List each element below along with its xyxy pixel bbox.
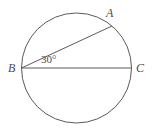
angle-measure-label: 30° [41, 54, 56, 65]
point-label-a: A [106, 7, 113, 19]
point-label-b: B [8, 62, 15, 74]
geometry-figure: A B C 30° [0, 0, 153, 128]
geometry-canvas [0, 0, 153, 128]
point-label-c: C [136, 62, 144, 74]
